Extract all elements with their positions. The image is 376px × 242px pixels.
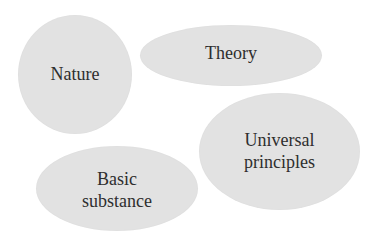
- bubble-label-universal-principles: Universal principles: [244, 129, 315, 173]
- bubble-label-nature: Nature: [51, 63, 100, 85]
- bubble-basic-substance: Basic substance: [36, 146, 198, 231]
- bubble-label-basic-substance: Basic substance: [82, 168, 152, 212]
- bubble-theory: Theory: [140, 25, 322, 86]
- bubble-universal-principles: Universal principles: [199, 93, 360, 210]
- bubble-label-theory: Theory: [205, 42, 257, 64]
- bubble-nature: Nature: [18, 15, 132, 134]
